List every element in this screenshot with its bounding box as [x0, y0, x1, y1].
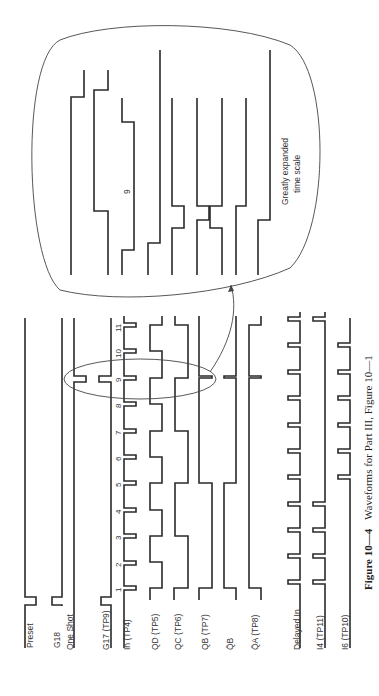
expanded-note-line2: time scale	[292, 154, 302, 193]
clock-8: 8	[114, 403, 123, 408]
expanded-marker: 9	[122, 189, 132, 194]
wave-in	[124, 316, 136, 648]
clock-2: 2	[114, 562, 123, 567]
label-qc: QC (TP6)	[173, 613, 183, 650]
label-i6: I6 (TP10)	[340, 614, 350, 650]
clock-5: 5	[114, 482, 123, 487]
clock-numbers: 1 2 3 4 5 6 7 8 9 10 11	[114, 323, 123, 592]
expanded-waveforms	[71, 50, 270, 275]
label-qd: QD (TP5)	[150, 613, 160, 650]
wave-oneshot	[74, 318, 86, 648]
wave-qc	[174, 316, 188, 600]
label-g17: G17 (TP9)	[101, 610, 111, 650]
label-qbbar: Q̄B	[225, 637, 235, 650]
wave-qabar	[249, 316, 261, 600]
label-g18: G18	[52, 632, 62, 648]
wave-i6	[338, 318, 350, 648]
clock-1: 1	[114, 587, 123, 592]
clock-10: 10	[114, 349, 123, 358]
wave-i4	[313, 312, 325, 648]
figure-number: Figure 10—4	[362, 528, 374, 590]
wave-qd	[150, 316, 162, 600]
expanded-note-line1: Greatly expanded	[280, 138, 290, 205]
label-qabar: Q̄A (TP8)	[250, 614, 260, 650]
wave-delayed	[288, 312, 300, 648]
wave-preset	[25, 318, 36, 648]
wave-g17	[99, 318, 111, 648]
clock-9: 9	[114, 377, 123, 382]
wave-g18	[52, 318, 62, 606]
wave-qbbar	[224, 316, 236, 600]
clock-4: 4	[114, 509, 123, 514]
clock-7: 7	[114, 430, 123, 435]
arrow-to-expanded	[210, 285, 234, 372]
timing-diagram-figure: Preset G18 One Shot G17 (TP9) In (TP4) Q…	[0, 0, 379, 696]
clock-6: 6	[114, 456, 123, 461]
wave-qb	[199, 316, 212, 600]
main-waveforms	[25, 312, 350, 648]
label-preset: Preset	[25, 623, 35, 648]
clock-11: 11	[114, 323, 123, 332]
label-qb: QB (TP7)	[200, 614, 210, 650]
figure-caption: Waveforms for Part III, Figure 10—1	[362, 355, 374, 520]
label-i4: I4 (TP11)	[315, 615, 325, 650]
clock-3: 3	[114, 535, 123, 540]
expanded-view-bubble	[32, 26, 320, 297]
